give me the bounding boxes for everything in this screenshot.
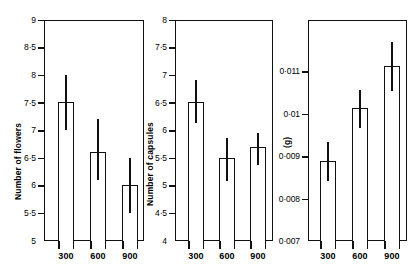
panel-flowers-xtick-300a [58,241,60,249]
panel-capsules-xtick-600a [219,241,221,249]
errorbar-flowers-900 [129,158,131,214]
panel-flowers-ytick-label-8: 8 [6,71,36,80]
panel-weight-y-axis-title: (g) [283,137,292,148]
errorbar-flowers-300 [65,75,67,130]
panel-capsules-xtick-300b [203,241,205,249]
panel-flowers-xtick-900a [122,241,124,249]
panel-weight-ytick-label-0p009: 0·009 [270,152,300,161]
panel-capsules-xtick-300a [188,241,190,249]
panel-weight-ytick-label-0p01: 0·01 [270,110,300,119]
panel-weight-xtick-label-600: 600 [344,252,376,261]
panel-weight-xtick-300b [335,241,337,249]
panel-flowers-ytick-label-6: 6 [6,181,36,190]
panel-weight-ytick-label-0p007: 0·007 [270,237,300,246]
panel-flowers-ytick-8p5 [38,47,45,49]
panel-weight-ytick-label-0p008: 0·008 [270,195,300,204]
panel-flowers-ytick-label-9: 9 [6,16,36,25]
panel-weight-xtick-label-300: 300 [312,252,344,261]
panel-capsules-ytick-7 [169,75,176,77]
panel-weight-xtick-label-900: 900 [376,252,408,261]
panel-weight-xtick-300a [320,241,322,249]
panel-weight-ytick-label-0p011: 0·011 [270,67,300,76]
panel-weight-xtick-900b [399,241,401,249]
panel-capsules-xtick-label-600: 600 [211,252,243,261]
panel-flowers-ytick-label-5p5: 5·5 [6,209,36,218]
panel-flowers-ytick-label-5: 5 [6,237,36,246]
errorbar-capsules-900 [257,133,259,165]
panel-capsules-ytick-5 [169,185,176,187]
panel-flowers-xtick-label-300: 300 [50,252,82,261]
panel-capsules-xtick-600b [234,241,236,249]
panel-capsules-ytick-label-4: 4 [137,237,167,246]
errorbar-weight-300 [327,142,329,181]
panel-flowers-ytick-7p5 [38,102,45,104]
panel-capsules-ytick-5p5 [169,158,176,160]
errorbar-capsules-600 [226,138,228,181]
panel-weight-ytick-0p01 [302,114,309,116]
panel-capsules-ytick-6 [169,130,176,132]
panel-capsules-ytick-6p5 [169,102,176,104]
panel-capsules-xtick-label-900: 900 [242,252,274,261]
panel-weight-xtick-600a [352,241,354,249]
panel-flowers-ytick-6p5 [38,158,45,160]
panel-flowers-ytick-8 [38,75,45,77]
panel-capsules-ytick-4p5 [169,213,176,215]
figure-root: Number of flowers 9 8·5 8 7·5 7 6·5 6 5·… [0,0,420,275]
panel-capsules-ytick-label-5: 5 [137,181,167,190]
panel-flowers-ytick-label-6p5: 6·5 [6,154,36,163]
panel-capsules-ytick-7p5 [169,47,176,49]
bar-weight-900 [384,66,400,241]
panel-capsules-ytick-8 [169,20,176,22]
panel-weight-ytick-0p011 [302,71,309,73]
errorbar-weight-900 [391,42,393,91]
panel-weight-ytick-0p008 [302,199,309,201]
panel-capsules-xtick-900b [265,241,267,249]
panel-flowers-ytick-6 [38,185,45,187]
panel-capsules-ytick-label-5p5: 5·5 [137,154,167,163]
panel-flowers-xtick-300b [73,241,75,249]
panel-flowers-ytick-label-8p5: 8·5 [6,43,36,52]
panel-capsules-ytick-label-7p5: 7·5 [137,43,167,52]
panel-capsules-ytick-label-7: 7 [137,71,167,80]
errorbar-weight-600 [359,90,361,128]
panel-flowers-xtick-600a [90,241,92,249]
panel-weight-xtick-600b [367,241,369,249]
panel-flowers-ytick-label-7p5: 7·5 [6,99,36,108]
panel-capsules-ytick-label-6: 6 [137,126,167,135]
panel-flowers-xtick-600b [105,241,107,249]
panel-weight-ytick-0p009 [302,156,309,158]
panel-flowers-ytick-9 [38,20,45,22]
panel-flowers-ytick-label-7: 7 [6,126,36,135]
panel-flowers-ytick-5p5 [38,213,45,215]
panel-flowers-xtick-label-900: 900 [114,252,146,261]
panel-capsules-ytick-label-8: 8 [137,16,167,25]
errorbar-capsules-300 [195,80,197,123]
panel-weight-xtick-900a [384,241,386,249]
panel-flowers-xtick-label-600: 600 [82,252,114,261]
panel-capsules-ytick-label-6p5: 6·5 [137,99,167,108]
panel-capsules-xtick-label-300: 300 [180,252,212,261]
errorbar-flowers-600 [97,119,99,180]
panel-capsules-xtick-900a [250,241,252,249]
panel-capsules-ytick-label-4p5: 4·5 [137,209,167,218]
panel-flowers-ytick-7 [38,130,45,132]
